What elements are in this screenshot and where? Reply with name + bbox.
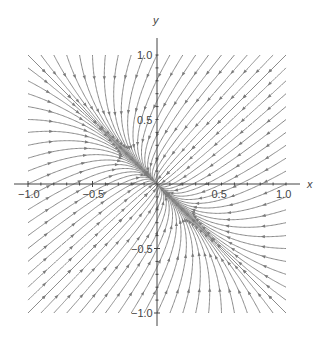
flow-arrow-icon xyxy=(176,289,179,293)
flow-arrow-icon xyxy=(226,218,230,221)
flow-arrow-icon xyxy=(113,112,116,116)
streamline xyxy=(157,55,286,184)
flow-arrow-icon xyxy=(208,288,211,292)
y-tick-label: −1.0 xyxy=(131,307,153,319)
flow-arrow-icon xyxy=(215,255,218,259)
flow-arrow-icon xyxy=(264,168,268,171)
flow-arrow-icon xyxy=(165,130,169,134)
y-tick-label: 0.5 xyxy=(137,114,152,126)
flow-arrow-icon xyxy=(218,288,221,292)
flow-arrow-icon xyxy=(263,191,267,194)
flow-arrow-icon xyxy=(163,103,166,107)
flow-arrow-icon xyxy=(179,220,182,224)
flow-arrow-icon xyxy=(265,156,269,160)
flow-arrow-icon xyxy=(204,252,207,256)
flow-arrow-icon xyxy=(106,183,110,186)
flow-arrow-icon xyxy=(198,252,201,256)
flow-arrow-icon xyxy=(127,190,131,194)
flow-arrow-icon xyxy=(79,117,83,121)
flow-arrow-icon xyxy=(85,134,89,137)
flow-arrow-icon xyxy=(117,159,121,162)
flow-arrow-icon xyxy=(204,182,208,185)
flow-arrow-icon xyxy=(230,194,234,197)
flow-arrow-icon xyxy=(84,147,88,150)
flow-arrow-icon xyxy=(109,175,113,178)
flow-arrow-icon xyxy=(226,236,230,239)
flow-arrow-icon xyxy=(248,291,251,295)
flow-arrow-icon xyxy=(82,123,86,126)
x-tick-label: −1.0 xyxy=(18,188,40,200)
y-tick-label: −0.5 xyxy=(131,243,153,255)
flow-arrow-icon xyxy=(47,162,51,165)
flow-arrow-icon xyxy=(167,257,170,261)
flow-arrow-icon xyxy=(63,73,66,77)
flow-arrow-icon xyxy=(83,75,86,79)
flow-arrow-icon xyxy=(262,203,266,206)
flow-arrow-icon xyxy=(163,154,167,158)
flow-arrow-icon xyxy=(46,90,50,93)
flow-arrow-icon xyxy=(74,201,78,205)
flow-arrow-icon xyxy=(135,74,138,78)
flow-arrow-icon xyxy=(228,288,231,292)
flow-arrow-icon xyxy=(201,190,205,193)
flow-arrow-icon xyxy=(234,174,238,177)
flow-arrow-icon xyxy=(103,76,106,80)
y-axis-label: y xyxy=(152,14,160,26)
flow-arrow-icon xyxy=(209,253,212,257)
flow-arrow-icon xyxy=(155,231,158,235)
flow-arrow-icon xyxy=(164,290,167,294)
flow-arrow-icon xyxy=(147,74,150,78)
flow-arrow-icon xyxy=(148,210,152,214)
x-axis-label: x xyxy=(306,178,313,190)
flow-arrow-icon xyxy=(47,100,51,103)
flow-arrow-icon xyxy=(132,144,135,148)
flow-arrow-icon xyxy=(102,110,105,114)
flow-arrow-icon xyxy=(221,258,225,262)
flow-arrow-icon xyxy=(96,109,99,113)
x-tick-label: 0.5 xyxy=(212,188,227,200)
flow-arrow-icon xyxy=(83,129,87,132)
flow-arrow-icon xyxy=(195,202,199,205)
flow-arrow-icon xyxy=(107,112,110,116)
flow-arrow-icon xyxy=(263,265,267,268)
flow-arrow-icon xyxy=(45,209,49,213)
flow-arrow-icon xyxy=(147,261,150,265)
flow-arrow-icon xyxy=(174,101,178,105)
flow-arrow-icon xyxy=(170,72,173,76)
flow-arrow-icon xyxy=(136,142,139,146)
flow-arrow-icon xyxy=(228,242,232,245)
y-tick-label: 1.0 xyxy=(137,49,152,61)
flow-arrow-icon xyxy=(47,174,51,177)
flow-arrow-icon xyxy=(207,173,211,177)
x-tick-label: −0.5 xyxy=(83,188,105,200)
flow-arrow-icon xyxy=(236,164,240,168)
flow-arrow-icon xyxy=(48,110,52,113)
flow-arrow-icon xyxy=(193,206,197,209)
stream-plot: −1.0−0.50.51.0 1.00.5−0.5−1.0 x y xyxy=(0,0,328,342)
flow-arrow-icon xyxy=(156,133,159,137)
flow-arrow-icon xyxy=(85,140,89,143)
flow-arrow-icon xyxy=(137,263,141,267)
flow-arrow-icon xyxy=(225,231,229,234)
flow-arrow-icon xyxy=(49,120,53,123)
x-tick-label: 1.0 xyxy=(276,188,291,200)
flow-arrow-icon xyxy=(261,235,265,238)
flow-arrow-icon xyxy=(148,136,151,140)
flow-arrow-icon xyxy=(146,234,150,238)
flow-arrow-icon xyxy=(238,290,241,294)
flow-arrow-icon xyxy=(73,74,76,78)
flow-arrow-icon xyxy=(183,175,187,179)
flow-arrow-icon xyxy=(231,248,235,252)
flow-arrow-icon xyxy=(144,106,147,110)
flow-arrow-icon xyxy=(175,222,178,226)
flow-arrow-icon xyxy=(191,253,194,257)
flow-arrow-icon xyxy=(90,106,94,110)
flow-arrow-icon xyxy=(76,190,80,193)
flow-arrow-icon xyxy=(182,72,186,76)
flow-arrow-icon xyxy=(115,163,119,166)
flow-arrow-icon xyxy=(261,255,265,258)
flow-arrow-icon xyxy=(141,291,144,295)
flow-arrow-icon xyxy=(163,228,166,232)
flow-arrow-icon xyxy=(264,275,268,278)
flow-arrow-icon xyxy=(93,76,96,80)
